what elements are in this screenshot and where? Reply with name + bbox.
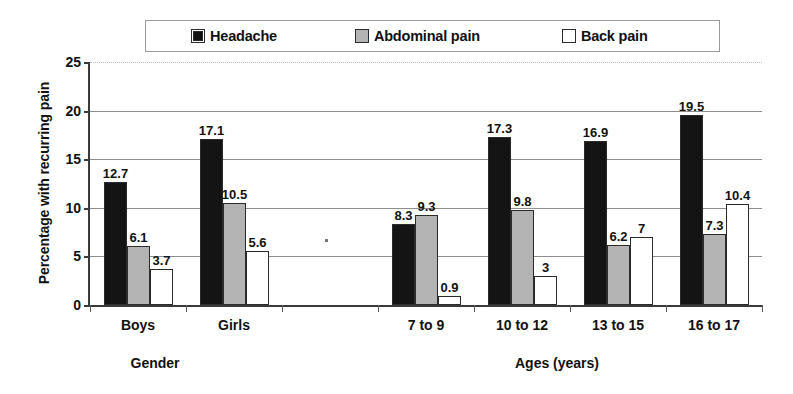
bar-value-label: 8.3 (394, 208, 412, 223)
bar-value-label: 9.8 (513, 194, 531, 209)
bar-back: 3 (534, 276, 557, 305)
y-axis-title: Percentage with recurring pain (36, 58, 52, 308)
black-square-icon (191, 29, 205, 43)
bar-headache: 19.5 (680, 115, 703, 305)
x-category-label: 16 to 17 (688, 317, 740, 333)
gray-square-icon (355, 29, 369, 43)
bar-abdominal: 7.3 (703, 234, 726, 305)
section-label-gender: Gender (130, 355, 179, 371)
bar-value-label: 9.3 (417, 199, 435, 214)
x-category-label: Girls (218, 317, 250, 333)
bar-value-label: 17.1 (199, 123, 224, 138)
y-tick-label: 20 (65, 103, 81, 119)
x-tick-mark (282, 305, 283, 312)
plot-area: 0510152025 12.76.13.7Boys17.110.55.6Girl… (88, 62, 762, 305)
legend-item-back-pain: Back pain (562, 28, 648, 44)
bar-abdominal: 6.2 (607, 245, 630, 305)
bar-value-label: 16.9 (583, 125, 608, 140)
bar-back: 7 (630, 237, 653, 305)
bar-value-label: 7.3 (705, 218, 723, 233)
bars: 16.96.27 (584, 62, 653, 305)
x-tick-mark (570, 305, 571, 312)
bar-group: 8.39.30.97 to 9 (378, 62, 474, 305)
y-tick-label: 10 (65, 200, 81, 216)
x-category-label: 7 to 9 (408, 317, 445, 333)
bars: 17.110.55.6 (200, 62, 269, 305)
bars: 17.39.83 (488, 62, 557, 305)
bars: 19.57.310.4 (680, 62, 749, 305)
bar-group: 12.76.13.7Boys (90, 62, 186, 305)
bar-value-label: 10.4 (725, 188, 750, 203)
bar-group: 16.96.2713 to 15 (570, 62, 666, 305)
bar-group-empty (282, 62, 378, 305)
bar-back: 3.7 (150, 269, 173, 305)
bar-headache: 12.7 (104, 182, 127, 305)
legend-item-abdominal-pain: Abdominal pain (355, 28, 480, 44)
x-tick-mark (762, 305, 763, 312)
legend-label: Abdominal pain (374, 28, 480, 44)
bars: 8.39.30.9 (392, 62, 461, 305)
bar-value-label: 17.3 (487, 121, 512, 136)
bar-value-label: 12.7 (103, 166, 128, 181)
legend-label: Back pain (581, 28, 648, 44)
y-tick-label: 5 (73, 248, 81, 264)
bar-group: 19.57.310.416 to 17 (666, 62, 762, 305)
x-tick-mark (474, 305, 475, 312)
bar-value-label: 0.9 (440, 280, 458, 295)
bar-value-label: 6.2 (609, 229, 627, 244)
bar-headache: 17.3 (488, 137, 511, 305)
x-category-label: 13 to 15 (592, 317, 644, 333)
y-tick-label: 0 (73, 297, 81, 313)
legend-label: Headache (210, 28, 277, 44)
x-tick-mark (90, 305, 91, 312)
y-tick-label: 25 (65, 54, 81, 70)
bar-abdominal: 6.1 (127, 246, 150, 305)
bar-headache: 16.9 (584, 141, 607, 305)
bar-value-label: 6.1 (129, 230, 147, 245)
y-tick-label: 15 (65, 151, 81, 167)
chart-legend: Headache Abdominal pain Back pain (145, 20, 720, 52)
bars: 12.76.13.7 (104, 62, 173, 305)
x-category-label: 10 to 12 (496, 317, 548, 333)
bar-value-label: 10.5 (222, 187, 247, 202)
bar-group: 17.110.55.6Girls (186, 62, 282, 305)
bar-value-label: 3.7 (152, 253, 170, 268)
bar-back: 0.9 (438, 296, 461, 305)
legend-item-headache: Headache (191, 28, 277, 44)
bar-headache: 17.1 (200, 139, 223, 305)
bar-back: 10.4 (726, 204, 749, 305)
x-tick-mark (666, 305, 667, 312)
bar-value-label: 3 (542, 260, 549, 275)
section-label-ages: Ages (years) (515, 355, 599, 371)
x-tick-mark (378, 305, 379, 312)
x-category-label: Boys (121, 317, 155, 333)
x-axis-line (88, 305, 762, 307)
bar-value-label: 5.6 (248, 235, 266, 250)
bar-value-label: 7 (638, 221, 645, 236)
bar-abdominal: 9.3 (415, 215, 438, 305)
bar-value-label: 19.5 (679, 99, 704, 114)
bar-group: 17.39.8310 to 12 (474, 62, 570, 305)
x-tick-mark (186, 305, 187, 312)
scan-artifact-speck (325, 239, 328, 242)
bar-abdominal: 9.8 (511, 210, 534, 305)
bar-back: 5.6 (246, 251, 269, 305)
bar-abdominal: 10.5 (223, 203, 246, 305)
white-square-icon (562, 29, 576, 43)
bar-headache: 8.3 (392, 224, 415, 305)
